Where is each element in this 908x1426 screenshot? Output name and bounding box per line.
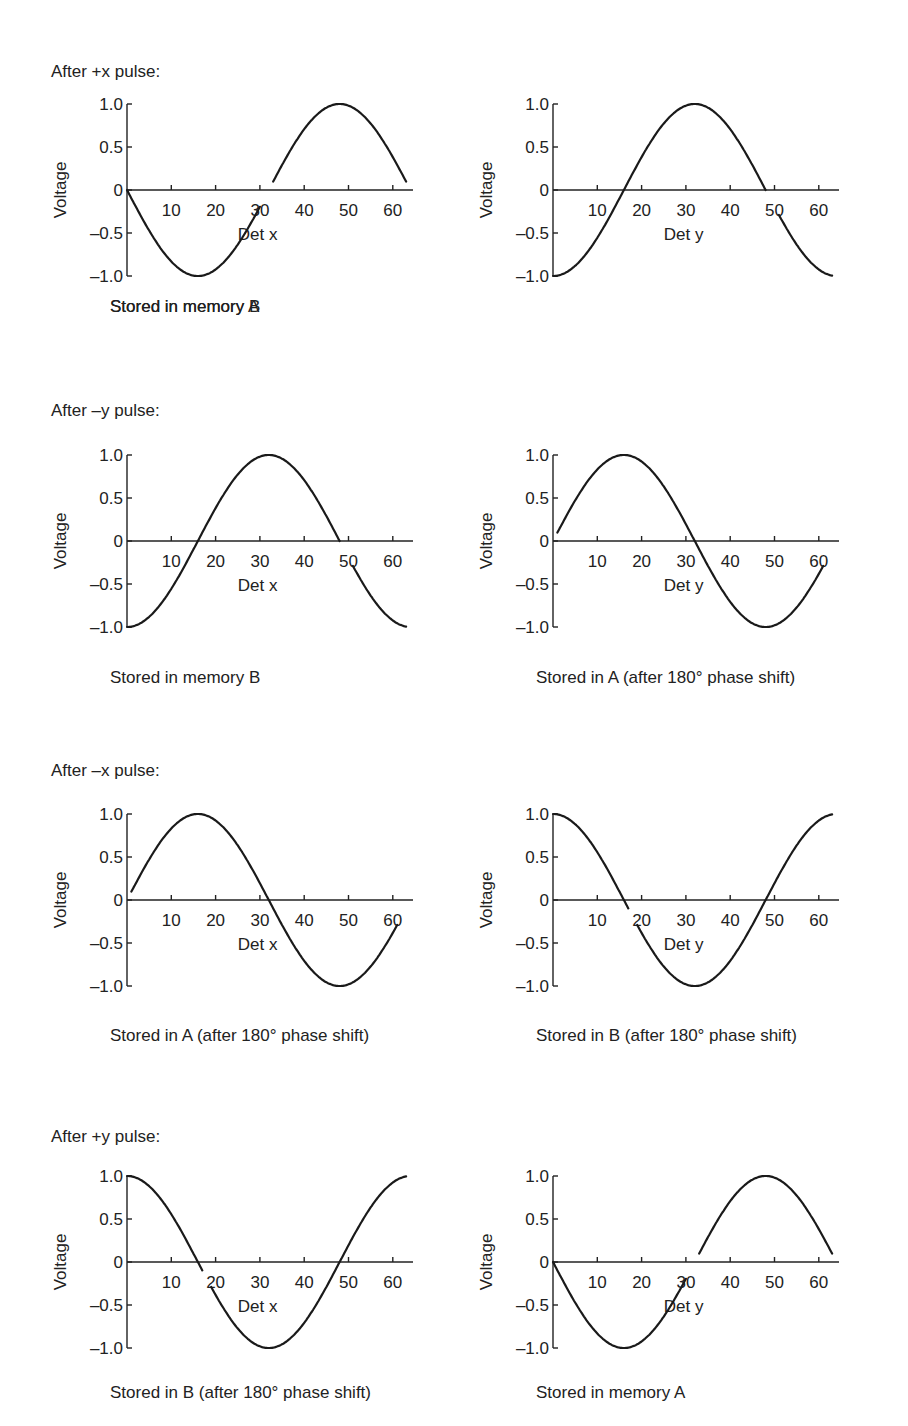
- y-axis-label: Voltage: [477, 1234, 496, 1291]
- y-tick-label: 0.5: [525, 138, 549, 157]
- x-tick-label: 10: [588, 552, 607, 571]
- y-tick-label: 0: [540, 1253, 549, 1272]
- y-tick-label: 0.5: [99, 138, 123, 157]
- x-axis-label: Det y: [664, 576, 704, 595]
- y-tick-label: 0: [114, 891, 123, 910]
- row-title-3: After +y pulse:: [51, 1127, 160, 1146]
- y-tick-label: 0.5: [525, 848, 549, 867]
- y-axis-label: Voltage: [51, 162, 70, 219]
- chart-panel-r3c1: 1.00.50–0.5–1.0102030405060VoltageDet yS…: [477, 1167, 839, 1402]
- y-tick-label: 0.5: [525, 1210, 549, 1229]
- x-tick-label: 40: [721, 1273, 740, 1292]
- y-axis-label: Voltage: [477, 872, 496, 929]
- y-axis-label: Voltage: [51, 872, 70, 929]
- x-tick-label: 60: [809, 552, 828, 571]
- y-tick-label: 0: [540, 891, 549, 910]
- x-tick-label: 10: [162, 201, 181, 220]
- x-tick-label: 10: [588, 911, 607, 930]
- y-tick-label: –1.0: [516, 1339, 549, 1358]
- y-tick-label: –0.5: [516, 575, 549, 594]
- x-tick-label: 60: [383, 911, 402, 930]
- x-tick-label: 40: [721, 552, 740, 571]
- y-tick-label: 1.0: [525, 805, 549, 824]
- figure-canvas: After +x pulse:After –y pulse:After –x p…: [0, 0, 908, 1426]
- x-tick-label: 20: [632, 1273, 651, 1292]
- y-tick-label: –0.5: [90, 934, 123, 953]
- panel-caption: Stored in memory B: [110, 297, 260, 316]
- x-tick-label: 10: [162, 911, 181, 930]
- chart-panel-r1c0: 1.00.50–0.5–1.0102030405060VoltageDet xS…: [51, 446, 413, 687]
- y-tick-label: 0.5: [99, 489, 123, 508]
- x-tick-label: 30: [676, 552, 695, 571]
- x-tick-label: 30: [676, 911, 695, 930]
- x-tick-label: 60: [809, 911, 828, 930]
- row-title-1: After –y pulse:: [51, 401, 160, 420]
- x-tick-label: 30: [250, 911, 269, 930]
- x-tick-label: 60: [383, 552, 402, 571]
- y-tick-label: 1.0: [525, 1167, 549, 1186]
- x-tick-label: 10: [162, 1273, 181, 1292]
- panel-caption: Stored in B (after 180° phase shift): [110, 1383, 371, 1402]
- chart-panel-r1c1: 1.00.50–0.5–1.0102030405060VoltageDet yS…: [477, 446, 839, 687]
- x-tick-label: 30: [250, 1273, 269, 1292]
- x-tick-label: 20: [632, 911, 651, 930]
- panel-caption: Stored in A (after 180° phase shift): [110, 1026, 369, 1045]
- y-tick-label: 1.0: [525, 95, 549, 114]
- y-tick-label: 1.0: [525, 446, 549, 465]
- x-tick-label: 40: [295, 1273, 314, 1292]
- y-tick-label: 1.0: [99, 805, 123, 824]
- x-tick-label: 50: [765, 1273, 784, 1292]
- y-tick-label: –1.0: [516, 618, 549, 637]
- panels: 1.00.50–0.5–1.0102030405060VoltageDet xS…: [51, 95, 839, 1402]
- y-tick-label: 0: [540, 181, 549, 200]
- y-tick-label: –1.0: [90, 618, 123, 637]
- y-tick-label: –1.0: [90, 1339, 123, 1358]
- panel-caption: Stored in memory A: [536, 1383, 686, 1402]
- y-axis-label: Voltage: [477, 162, 496, 219]
- x-tick-label: 60: [383, 1273, 402, 1292]
- y-tick-label: 0: [114, 181, 123, 200]
- x-tick-label: 50: [339, 911, 358, 930]
- x-tick-label: 40: [295, 201, 314, 220]
- x-tick-label: 20: [206, 201, 225, 220]
- y-tick-label: –0.5: [90, 224, 123, 243]
- chart-panel-r2c0: 1.00.50–0.5–1.0102030405060VoltageDet xS…: [51, 805, 413, 1045]
- x-tick-label: 20: [206, 911, 225, 930]
- y-tick-label: 1.0: [99, 1167, 123, 1186]
- y-axis-label: Voltage: [51, 1234, 70, 1291]
- x-tick-label: 50: [765, 911, 784, 930]
- chart-panel-r3c0: 1.00.50–0.5–1.0102030405060VoltageDet xS…: [51, 1167, 413, 1402]
- x-tick-label: 10: [588, 1273, 607, 1292]
- y-tick-label: 1.0: [99, 95, 123, 114]
- panel-caption: Stored in memory B: [110, 668, 260, 687]
- y-tick-label: –0.5: [90, 575, 123, 594]
- x-axis-label: Det y: [664, 935, 704, 954]
- y-tick-label: 0.5: [99, 848, 123, 867]
- y-axis-label: Voltage: [51, 513, 70, 570]
- x-tick-label: 60: [809, 1273, 828, 1292]
- y-tick-label: 0: [540, 532, 549, 551]
- x-tick-label: 50: [765, 552, 784, 571]
- x-tick-label: 20: [632, 552, 651, 571]
- y-tick-label: –1.0: [90, 267, 123, 286]
- x-tick-label: 10: [162, 552, 181, 571]
- y-tick-label: –1.0: [516, 977, 549, 996]
- y-tick-label: –0.5: [90, 1296, 123, 1315]
- y-tick-label: –1.0: [516, 267, 549, 286]
- y-tick-label: –0.5: [516, 934, 549, 953]
- row-title-2: After –x pulse:: [51, 761, 160, 780]
- x-tick-label: 40: [295, 911, 314, 930]
- x-axis-label: Det x: [238, 576, 278, 595]
- y-tick-label: 0: [114, 532, 123, 551]
- x-tick-label: 30: [250, 552, 269, 571]
- x-tick-label: 40: [721, 911, 740, 930]
- x-tick-label: 60: [809, 201, 828, 220]
- x-axis-label: Det x: [238, 935, 278, 954]
- y-tick-label: 0: [114, 1253, 123, 1272]
- chart-panel-r0c0: 1.00.50–0.5–1.0102030405060VoltageDet xS…: [51, 95, 413, 316]
- y-tick-label: –0.5: [516, 1296, 549, 1315]
- x-tick-label: 30: [676, 201, 695, 220]
- y-tick-label: 0.5: [525, 489, 549, 508]
- x-tick-label: 20: [206, 1273, 225, 1292]
- y-tick-label: –0.5: [516, 224, 549, 243]
